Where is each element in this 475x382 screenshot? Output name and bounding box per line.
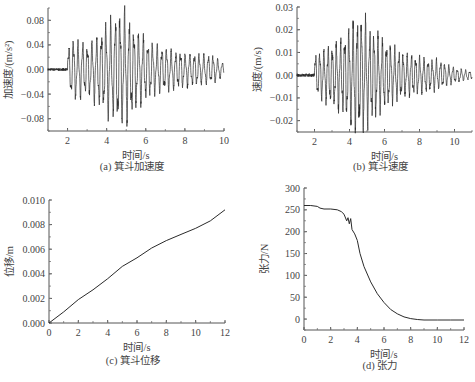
x-tick-label: 12 — [220, 327, 230, 338]
x-tick-label: 8 — [182, 135, 187, 146]
x-tick-label: 2 — [312, 136, 317, 147]
x-tick-label: 10 — [219, 135, 229, 146]
x-tick-label: 4 — [105, 327, 110, 338]
y-tick-label: 0.006 — [23, 244, 46, 255]
panel-caption: (d) 张力 — [363, 359, 398, 372]
panel-a-acceleration-chart: 2468100.080.040.00−0.04−0.08时间/s加速度/(m/s… — [2, 6, 229, 174]
y-tick-label: 0 — [295, 314, 300, 325]
data-series-line — [297, 13, 472, 133]
y-axis-title: 速度/(m/s) — [251, 46, 264, 92]
x-tick-label: 10 — [191, 327, 201, 338]
data-series-line — [304, 206, 464, 321]
x-tick-label: 12 — [459, 334, 469, 345]
data-series-line — [49, 210, 225, 323]
y-tick-label: 50 — [290, 292, 300, 303]
x-tick-label: 4 — [347, 136, 352, 147]
y-tick-label: 0.010 — [23, 195, 46, 206]
y-axis-title: 位移/m — [3, 246, 15, 277]
data-series-line — [48, 6, 224, 127]
x-tick-label: 0 — [302, 334, 307, 345]
y-tick-label: 150 — [285, 248, 300, 259]
y-tick-label: 300 — [285, 183, 300, 194]
y-tick-label: 0.004 — [23, 268, 46, 279]
y-tick-label: 0.00 — [27, 64, 45, 75]
y-axis-title: 张力/N — [258, 243, 270, 274]
y-tick-label: 0.03 — [276, 2, 294, 13]
y-axis-title: 加速度/(m/s²) — [2, 40, 15, 99]
panel-b-velocity-chart: 2468100.030.020.010.00−0.01−0.02时间/s速度/(… — [251, 2, 472, 174]
y-tick-label: 0.08 — [27, 15, 45, 26]
y-tick-label: −0.02 — [270, 115, 293, 126]
panel-caption: (a) 箕斗加速度 — [100, 160, 165, 173]
y-tick-label: 0.002 — [23, 293, 46, 304]
x-axis-title: 时间/s — [123, 341, 150, 353]
y-tick-label: 0.04 — [27, 39, 45, 50]
x-tick-label: 2 — [65, 135, 70, 146]
x-axis-title: 时间/s — [370, 348, 397, 360]
x-tick-label: 4 — [104, 135, 109, 146]
x-tick-label: 2 — [76, 327, 81, 338]
y-tick-label: 0.01 — [276, 47, 294, 58]
x-tick-label: 10 — [432, 334, 442, 345]
y-tick-label: 100 — [285, 270, 300, 281]
y-tick-label: −0.01 — [270, 92, 293, 103]
x-tick-label: 10 — [450, 136, 460, 147]
x-tick-label: 8 — [164, 327, 169, 338]
panel-caption: (c) 箕斗位移 — [106, 354, 161, 367]
x-tick-label: 6 — [382, 334, 387, 345]
y-tick-label: 250 — [285, 204, 300, 215]
axes: 0246810120.0000.0020.0040.0060.0080.010 — [23, 195, 231, 339]
x-tick-label: 6 — [143, 135, 148, 146]
x-tick-label: 8 — [417, 136, 422, 147]
x-tick-label: 0 — [47, 327, 52, 338]
axes: 024681012300250200150100500 — [285, 183, 469, 346]
panel-c-displacement-chart: 0246810120.0000.0020.0040.0060.0080.010时… — [3, 195, 230, 368]
x-tick-label: 2 — [328, 334, 333, 345]
y-tick-label: 0.008 — [23, 219, 46, 230]
panel-caption: (b) 箕斗速度 — [353, 160, 409, 173]
x-tick-label: 4 — [355, 334, 360, 345]
y-tick-label: 200 — [285, 226, 300, 237]
y-tick-label: 0.00 — [276, 70, 294, 81]
figure-canvas: 2468100.080.040.00−0.04−0.08时间/s加速度/(m/s… — [0, 0, 475, 382]
x-tick-label: 6 — [382, 136, 387, 147]
x-axis-title: 时间/s — [122, 149, 149, 161]
y-tick-label: 0.02 — [276, 24, 294, 35]
x-tick-label: 6 — [135, 327, 140, 338]
y-tick-label: −0.08 — [21, 113, 44, 124]
panel-d-tension-chart: 024681012300250200150100500时间/s张力/N(d) 张… — [258, 183, 469, 373]
y-tick-label: −0.04 — [21, 89, 44, 100]
y-tick-label: 0.000 — [23, 318, 46, 329]
x-tick-label: 8 — [408, 334, 413, 345]
